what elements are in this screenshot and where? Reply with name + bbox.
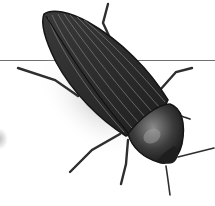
beetle-illustration bbox=[0, 0, 215, 206]
beetle-photo bbox=[0, 0, 215, 206]
